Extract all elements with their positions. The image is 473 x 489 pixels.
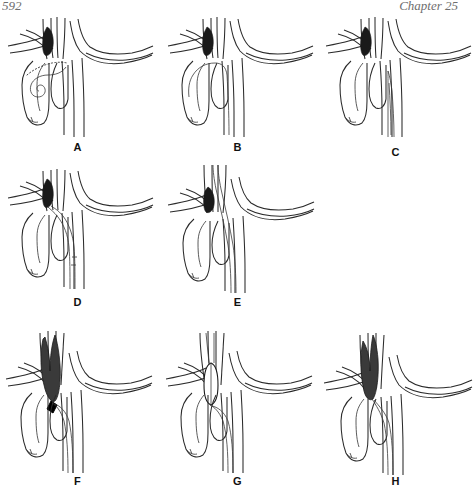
aortic-arch-illustration-b bbox=[160, 13, 315, 143]
page-number: 592 bbox=[2, 0, 22, 13]
aortic-arch-illustration-h bbox=[318, 327, 473, 475]
chapter-running-head: Chapter 25 bbox=[399, 0, 458, 13]
figure-panel-c: C bbox=[318, 13, 473, 163]
panel-label-g: G bbox=[160, 475, 315, 487]
panel-label-h: H bbox=[318, 475, 473, 487]
figure-panel-grid: A bbox=[0, 13, 464, 489]
aortic-arch-illustration-f bbox=[0, 327, 155, 475]
figure-panel-f: F bbox=[0, 327, 155, 489]
figure-panel-b: B bbox=[160, 13, 315, 163]
panel-label-b: B bbox=[160, 141, 315, 153]
panel-label-f: F bbox=[0, 475, 155, 487]
panel-label-e: E bbox=[160, 296, 315, 308]
figure-panel-g: G bbox=[160, 327, 315, 489]
aortic-arch-illustration-d bbox=[0, 165, 155, 295]
aortic-arch-illustration-e bbox=[160, 165, 315, 295]
aortic-arch-illustration-c bbox=[318, 13, 473, 143]
panel-label-c: C bbox=[318, 146, 473, 158]
figure-panel-a: A bbox=[0, 13, 155, 163]
figure-panel-h: H bbox=[318, 327, 473, 489]
panel-label-d: D bbox=[0, 296, 155, 308]
aortic-arch-illustration-g bbox=[160, 327, 315, 475]
figure-panel-d: D bbox=[0, 165, 155, 315]
aortic-arch-illustration-a bbox=[0, 13, 155, 143]
figure-panel-e: E bbox=[160, 165, 315, 315]
panel-label-a: A bbox=[0, 141, 155, 153]
